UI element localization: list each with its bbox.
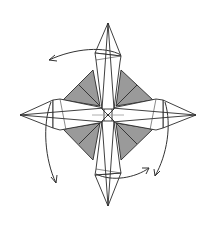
center-point (107, 114, 109, 116)
origami-star-diagram (0, 0, 208, 227)
